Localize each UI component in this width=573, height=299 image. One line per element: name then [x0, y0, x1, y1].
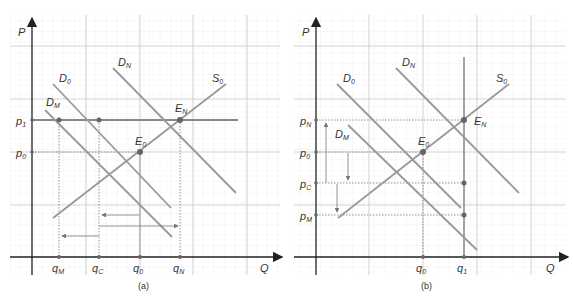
- y-axis-label: P: [302, 26, 310, 38]
- caption-b: (b): [421, 281, 432, 291]
- panel-a: P Q: [10, 15, 282, 291]
- panel-b: P Q pN p0 pC: [294, 15, 568, 291]
- x-axis-label: Q: [260, 262, 269, 274]
- x-axis-label: Q: [546, 262, 555, 274]
- caption-a: (a): [138, 281, 149, 291]
- diagram-canvas: P Q: [0, 0, 573, 299]
- y-axis-label: P: [18, 26, 26, 38]
